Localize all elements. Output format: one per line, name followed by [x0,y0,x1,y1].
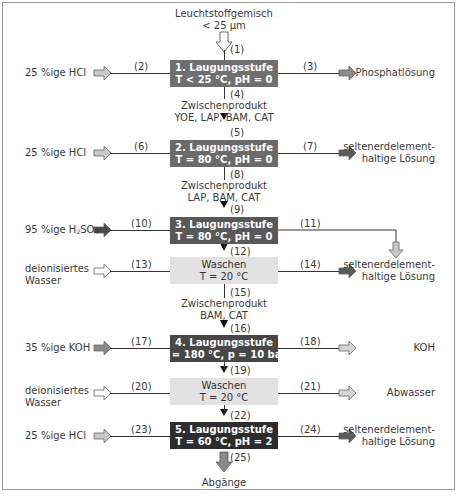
stream-number: (17) [131,336,152,348]
stream-number: (24) [300,424,321,436]
stream-line [278,271,339,272]
input-label: 95 %ige H2SO4 [25,224,98,236]
arrow-right-icon [339,66,356,80]
stream-line [278,436,339,437]
stage-2-box: 2. LaugungsstufeT = 80 °C, pH = 0 [170,140,278,167]
stream-number: (2) [134,61,148,73]
stream-number: (18) [300,336,321,348]
stream-line [224,405,225,411]
stream-line [110,230,170,231]
stream-line [224,50,225,60]
stream-number: (21) [300,381,321,393]
stream-number: (1) [230,44,244,56]
stream-number: (22) [230,410,251,422]
stage-3-box: 3. LaugungsstufeT = 80 °C, pH = 0 [170,217,278,244]
stream-number: (5) [230,127,244,139]
input-label: deionisiertesWasser [25,385,89,409]
stream-number: (13) [131,259,152,271]
output-label: Abwasser [387,387,435,399]
stream-line [224,284,225,298]
wash-2-box: WaschenT = 20 °C [170,378,278,405]
stream-line [278,393,339,394]
wash-1-box: WaschenT = 20 °C [170,257,278,284]
arrow-down-icon [389,242,403,258]
output-label: seltenerdelement-haltige Lösung [343,259,435,283]
stream-number: (6) [134,141,148,153]
stream-number: (11) [300,218,321,230]
output-bottom-label: Abgänge [202,477,247,489]
stream-number: (10) [131,218,152,230]
stage-1-box: 1. LaugungsstufeT < 25 °C, pH = 0 [170,60,278,87]
stage-4-box: 4. LaugungsstufeT = 180 °C, p = 10 bar [170,335,278,362]
intermediate-label: ZwischenproduktLAP, BAM, CAT [181,180,267,204]
stream-line [110,271,170,272]
arrow-right-icon [94,429,111,443]
stream-number: (19) [230,365,251,377]
stream-line [110,436,170,437]
stream-number: (20) [131,381,152,393]
input-label: 25 %ige HCl [25,430,86,442]
arrow-right-icon [94,386,111,400]
intermediate-label: ZwischenproduktYOE, LAP, BAM, CAT [175,100,274,124]
input-label: 25 %ige HCl [25,67,86,79]
stream-line [110,73,170,74]
stream-line [278,348,339,349]
stream-line [110,153,170,154]
output-label: seltenerdelement-haltige Lösung [343,141,435,165]
arrow-right-icon [94,66,111,80]
input-label: Leuchtstoffgemisch < 25 µm [175,8,273,32]
stream-number: (25) [230,452,251,464]
output-label: Phosphatlösung [355,67,435,79]
intermediate-label: ZwischenproduktBAM, CAT [181,298,267,322]
arrow-right-icon [94,341,111,355]
stream-line [278,73,339,74]
input-label: deionisiertesWasser [25,263,89,287]
arrow-right-icon [339,341,356,355]
stream-line [224,244,225,248]
input-label: 25 %ige HCl [25,147,86,159]
stream-line [224,362,225,370]
arrow-right-icon [339,386,356,400]
output-label: seltenerdelement-haltige Lösung [343,424,435,448]
stage-5-box: 5. LaugungsstufeT = 60 °C, pH = 2 [170,422,278,449]
stream-line [110,393,170,394]
stream-line [224,87,225,99]
stream-number: (16) [230,323,251,335]
output-label: KOH [414,342,435,354]
stream-number: (23) [131,424,152,436]
stream-number: (7) [303,141,317,153]
input-label: 35 %ige KOH [25,342,90,354]
arrow-right-icon [94,264,111,278]
stream-line [224,167,225,180]
stream-number: (9) [230,204,244,216]
stream-number: (14) [300,259,321,271]
stream-number: (3) [303,61,317,73]
stream-11-line [278,230,396,242]
arrow-right-icon [94,146,111,160]
stream-line [278,153,339,154]
stream-number: (12) [230,246,251,258]
